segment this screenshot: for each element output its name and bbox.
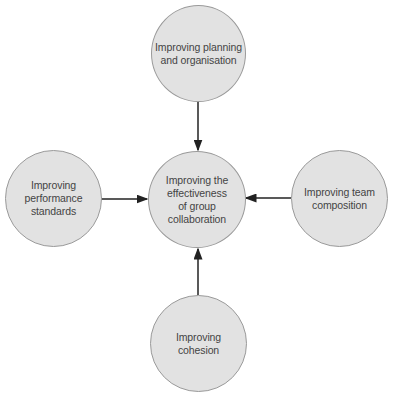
node-label-line: and organisation [160,54,236,66]
node-label-line: Improving the [166,174,228,186]
node-label-line: cohesion [178,344,219,356]
node-label-line: Improving team [304,186,375,198]
node-label-line: composition [312,199,367,211]
node-performance-standards: Improvingperformancestandards [5,150,102,247]
node-label-line: standards [31,205,76,217]
node-center-group-collaboration: Improving theeffectivenessof groupcollab… [148,151,246,248]
node-planning-organisation: Improving planningand organisation [151,5,246,102]
node-label-line: effectiveness [167,187,227,199]
node-label-line: Improving [176,331,221,343]
node-label-line: collaboration [168,213,226,225]
node-cohesion: Improvingcohesion [150,295,247,392]
node-label-line: of group [178,200,216,212]
node-label-line: performance [25,192,83,204]
node-label-line: Improving planning [155,41,242,53]
node-label-line: Improving [31,179,76,191]
node-team-composition: Improving teamcomposition [291,150,388,247]
